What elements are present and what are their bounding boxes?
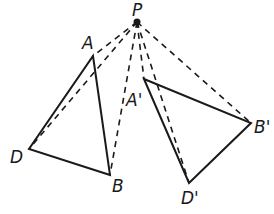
diagram-svg: P A B D A' B' D' (0, 0, 274, 214)
label-B: B (112, 176, 124, 196)
triangle-ABD (29, 56, 110, 175)
rotation-diagram: P A B D A' B' D' (0, 0, 274, 214)
segment-PB-prime (137, 22, 251, 123)
label-D: D (10, 147, 23, 167)
label-A-prime: A' (125, 90, 142, 110)
segment-PA (93, 22, 137, 56)
label-D-prime: D' (181, 188, 199, 208)
segment-PA-prime (137, 22, 144, 79)
triangle-A-prime-B-prime-D-prime (144, 79, 251, 183)
label-A: A (81, 33, 94, 53)
label-B-prime: B' (254, 117, 270, 137)
label-P: P (132, 0, 143, 20)
segment-PD-prime (137, 22, 189, 183)
